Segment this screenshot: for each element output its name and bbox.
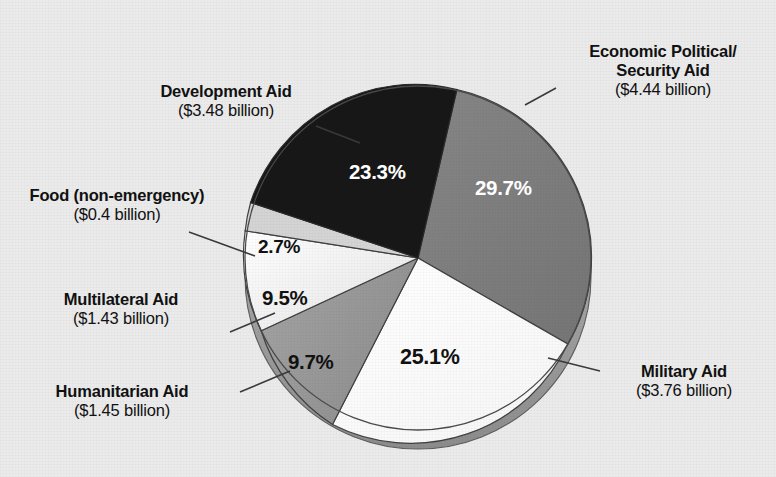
slice-percent-humanitarian-aid: 9.7%	[288, 350, 334, 374]
slice-percent-food-non-emergency: 2.7%	[258, 236, 300, 258]
callout-humanitarian-aid-title: Humanitarian Aid	[12, 382, 232, 401]
callout-food-non-emergency-title: Food (non-emergency)	[6, 186, 228, 205]
leader-line-economic-political-security-aid	[525, 88, 556, 105]
callout-multilateral-aid-title: Multilateral Aid	[18, 290, 224, 309]
slice-percent-development-aid: 23.3%	[349, 160, 406, 184]
callout-humanitarian-aid[interactable]: Humanitarian Aid ($1.45 billion)	[12, 382, 232, 420]
callout-food-non-emergency-amount: ($0.4 billion)	[6, 205, 228, 224]
slice-percent-multilateral-aid: 9.5%	[262, 286, 308, 310]
callout-economic-political-security-aid-title-line2: Security Aid	[560, 61, 766, 80]
callout-economic-political-security-aid-title-line1: Economic Political/	[560, 42, 766, 61]
callout-multilateral-aid-amount: ($1.43 billion)	[18, 309, 224, 328]
callout-economic-political-security-aid[interactable]: Economic Political/ Security Aid ($4.44 …	[560, 42, 766, 99]
callout-food-non-emergency[interactable]: Food (non-emergency) ($0.4 billion)	[6, 186, 228, 224]
callout-humanitarian-aid-amount: ($1.45 billion)	[12, 401, 232, 420]
callout-development-aid-amount: ($3.48 billion)	[126, 101, 326, 120]
slice-percent-military-aid: 25.1%	[400, 345, 459, 370]
pie-chart-figure: 23.3% 29.7% 2.7% 9.5% 9.7% 25.1% Develop…	[0, 0, 776, 477]
callout-economic-political-security-aid-amount: ($4.44 billion)	[560, 80, 766, 99]
callout-military-aid[interactable]: Military Aid ($3.76 billion)	[598, 362, 770, 400]
callout-development-aid[interactable]: Development Aid ($3.48 billion)	[126, 82, 326, 120]
callout-development-aid-title: Development Aid	[126, 82, 326, 101]
callout-multilateral-aid[interactable]: Multilateral Aid ($1.43 billion)	[18, 290, 224, 328]
callout-military-aid-amount: ($3.76 billion)	[598, 381, 770, 400]
callout-military-aid-title: Military Aid	[598, 362, 770, 381]
slice-percent-economic-political-security-aid: 29.7%	[475, 176, 532, 200]
